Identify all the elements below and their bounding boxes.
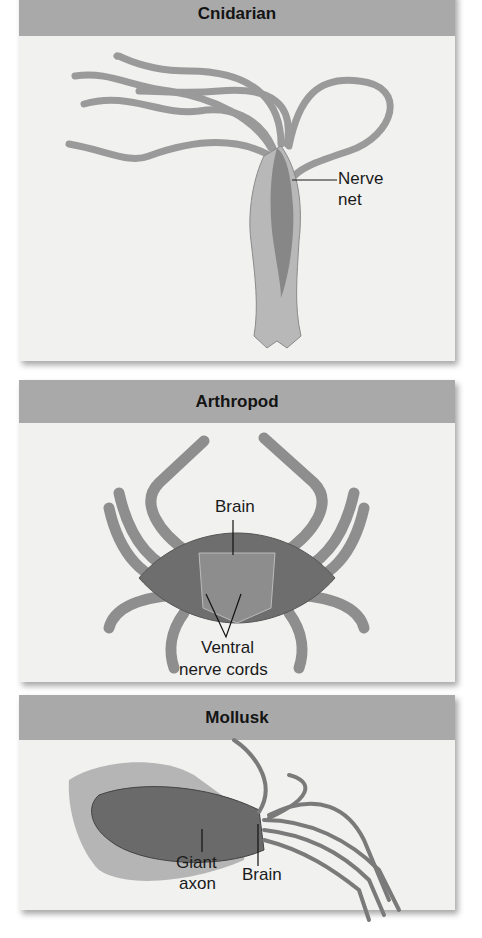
label-nerve-net-line2: net bbox=[338, 190, 362, 210]
panel-body-mollusk: Giant axon Brain bbox=[19, 740, 455, 910]
panel-header-arthropod: Arthropod bbox=[19, 380, 455, 423]
squid-illustration bbox=[19, 740, 455, 938]
label-ventral-nerve-cords-line1: Ventral bbox=[201, 638, 254, 658]
panel-title: Mollusk bbox=[205, 708, 268, 728]
label-brain-mollusk: Brain bbox=[242, 865, 282, 885]
panel-header-cnidarian: Cnidarian bbox=[19, 0, 455, 36]
panel-cnidarian: Cnidarian Nerve net bbox=[19, 0, 455, 361]
panel-body-arthropod: Brain Ventral nerve cords bbox=[19, 423, 455, 682]
panel-body-cnidarian: Nerve net bbox=[19, 36, 455, 361]
panel-mollusk: Mollusk Giant axon Brain bbox=[19, 695, 455, 910]
panel-title: Cnidarian bbox=[198, 4, 276, 24]
label-giant-axon-line1: Giant bbox=[176, 853, 217, 873]
label-nerve-net-line1: Nerve bbox=[338, 169, 383, 189]
hydra-illustration bbox=[19, 36, 455, 361]
label-giant-axon-line2: axon bbox=[179, 874, 216, 894]
label-ventral-nerve-cords-line2: nerve cords bbox=[179, 660, 268, 680]
panel-header-mollusk: Mollusk bbox=[19, 695, 455, 740]
label-brain-arthropod: Brain bbox=[215, 497, 255, 517]
panel-title: Arthropod bbox=[195, 392, 278, 412]
panel-arthropod: Arthropod Brain Ventral nerve cords bbox=[19, 380, 455, 682]
